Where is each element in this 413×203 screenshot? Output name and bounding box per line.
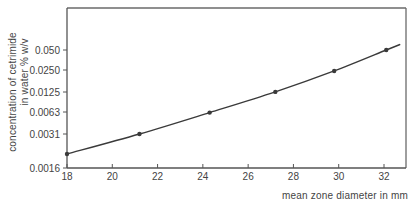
x-tick-label: 24 bbox=[197, 171, 209, 182]
x-tick-label: 32 bbox=[378, 171, 390, 182]
x-tick-label: 30 bbox=[333, 171, 345, 182]
data-point-marker bbox=[137, 132, 141, 136]
y-tick-label: 0.0031 bbox=[29, 129, 60, 140]
y-tick-label: 0.0125 bbox=[29, 87, 60, 98]
data-point-marker bbox=[273, 90, 277, 94]
x-axis-ticks: 1820222426283032 bbox=[61, 164, 390, 182]
y-tick-label: 0.050 bbox=[35, 45, 60, 56]
data-point-marker bbox=[332, 69, 336, 73]
x-tick-label: 26 bbox=[243, 171, 255, 182]
y-axis-title-line2: in water % w/v bbox=[19, 38, 30, 105]
x-axis-title: mean zone diameter in mm bbox=[282, 190, 408, 201]
x-tick-label: 18 bbox=[61, 171, 73, 182]
plot-frame bbox=[67, 8, 406, 168]
y-axis-title-line1: concentration of cetrimide bbox=[7, 32, 18, 152]
y-axis-ticks: 0.00160.00310.00630.01250.02500.050 bbox=[29, 45, 67, 174]
series-line bbox=[67, 44, 400, 154]
y-tick-label: 0.0063 bbox=[29, 107, 60, 118]
x-tick-label: 28 bbox=[288, 171, 300, 182]
data-point-marker bbox=[65, 152, 69, 156]
y-tick-label: 0.0250 bbox=[29, 65, 60, 76]
y-tick-label: 0.0016 bbox=[29, 163, 60, 174]
x-tick-label: 20 bbox=[107, 171, 119, 182]
data-series bbox=[65, 44, 400, 156]
data-point-marker bbox=[384, 48, 388, 52]
data-point-marker bbox=[207, 110, 211, 114]
chart: 1820222426283032 0.00160.00310.00630.012… bbox=[0, 0, 413, 203]
x-tick-label: 22 bbox=[152, 171, 164, 182]
